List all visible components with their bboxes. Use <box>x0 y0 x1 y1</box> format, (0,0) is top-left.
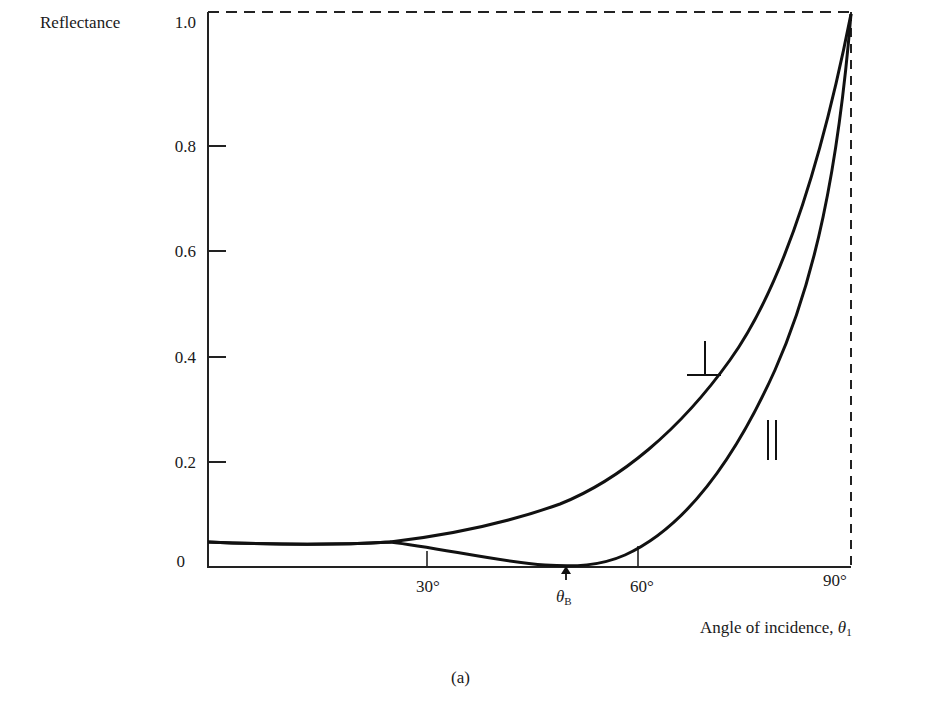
brewster-angle-label: θB <box>556 588 572 607</box>
figure-caption: (a) <box>451 669 470 686</box>
x-tick-label: 30° <box>398 578 458 595</box>
y-tick-label: 0.6 <box>146 243 196 260</box>
y-axis-title: Reflectance <box>40 14 120 31</box>
perpendicular-symbol-icon <box>687 341 721 375</box>
parallel-symbol-icon <box>768 420 776 460</box>
brewster-arrow-icon <box>561 566 571 580</box>
x-axis-title: Angle of incidence, θ1 <box>700 619 852 638</box>
curve-perpendicular <box>208 14 851 544</box>
reflectance-plot <box>0 0 949 723</box>
x-tick-label: 90° <box>805 572 865 589</box>
curve-parallel <box>208 14 851 566</box>
y-tick-label: 0.4 <box>146 349 196 366</box>
x-tick-label: 60° <box>612 578 672 595</box>
y-ticks <box>208 146 226 462</box>
y-tick-label: 1.0 <box>146 14 196 31</box>
y-tick-label: 0 <box>135 553 185 570</box>
y-tick-label: 0.8 <box>146 138 196 155</box>
y-tick-label: 0.2 <box>146 454 196 471</box>
